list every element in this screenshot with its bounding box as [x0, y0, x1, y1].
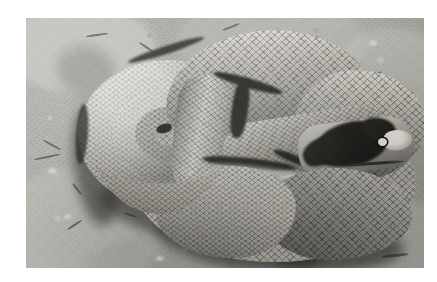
photograph: Black-and-white photograph of a heavy-bo… — [26, 18, 424, 268]
film-grain — [26, 18, 424, 268]
screenshot-canvas: Black-and-white photograph of a heavy-bo… — [0, 0, 437, 282]
